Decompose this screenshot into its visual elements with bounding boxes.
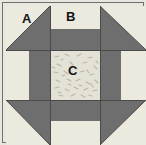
seam-vertical-left — [50, 6, 51, 145]
edge-bottom — [50, 100, 100, 145]
corner-top-right — [100, 6, 146, 50]
edge-right-light — [121, 50, 146, 100]
edge-right-dark — [100, 50, 121, 100]
edge-right — [100, 50, 146, 100]
edge-left — [6, 50, 50, 100]
corner-bottom-right — [100, 100, 146, 145]
triangle-dark-top-right — [6, 100, 50, 145]
label-A: A — [22, 12, 31, 25]
triangle-dark-top-left — [100, 100, 146, 145]
label-B: B — [66, 10, 75, 23]
seam-horizontal-bottom — [6, 100, 146, 101]
edge-left-dark — [29, 50, 50, 100]
block-outer-frame: A B C — [2, 2, 144, 143]
label-C: C — [68, 64, 77, 77]
quilt-block-diagram: A B C — [0, 0, 146, 145]
seam-vertical-right — [100, 6, 101, 145]
corner-bottom-left — [6, 100, 50, 145]
edge-bottom-light — [50, 121, 100, 145]
edge-bottom-dark — [50, 100, 100, 121]
seam-horizontal-top — [6, 50, 146, 51]
edge-top-dark — [50, 29, 100, 50]
edge-left-light — [6, 50, 29, 100]
triangle-dark-bottom-left — [100, 6, 146, 50]
